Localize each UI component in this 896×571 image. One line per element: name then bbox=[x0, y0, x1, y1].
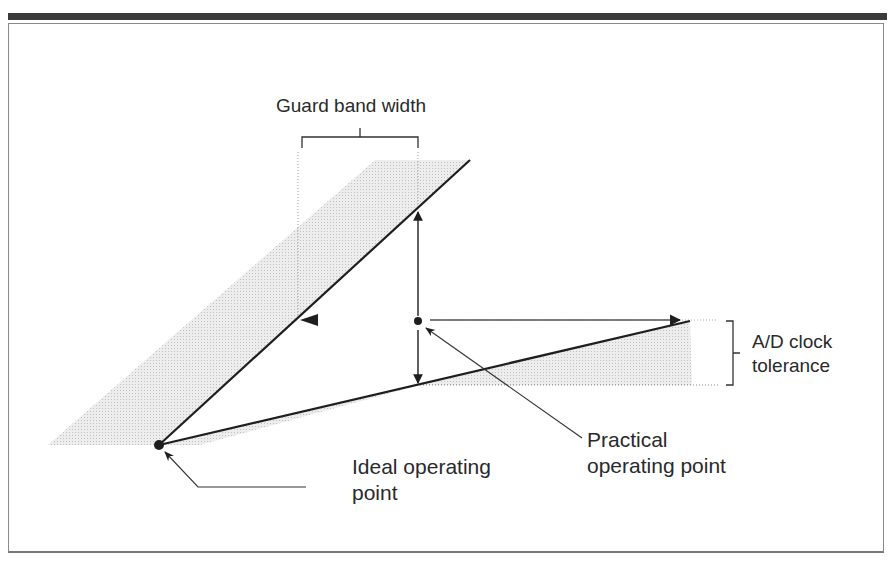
ideal-operating-point-dot bbox=[154, 440, 164, 450]
guard-left-arrow-icon bbox=[300, 314, 318, 326]
practical-operating-point-label-line1: Practical bbox=[587, 428, 668, 452]
ideal-operating-point-label-line1: Ideal operating bbox=[352, 455, 491, 479]
operating-point-diagram bbox=[0, 0, 896, 571]
guard-band-bracket bbox=[302, 128, 418, 148]
ad-clock-tolerance-label-line1: A/D clock bbox=[752, 330, 832, 354]
guard-band-width-label: Guard band width bbox=[276, 94, 426, 118]
ad-clock-tolerance-label-line2: tolerance bbox=[752, 354, 830, 378]
upper-guard-band-shade bbox=[48, 160, 470, 445]
practical-operating-point-label-line2: operating point bbox=[587, 454, 726, 478]
upper-boundary-line bbox=[159, 160, 470, 445]
ideal-leader-line bbox=[165, 452, 306, 487]
ideal-operating-point-label-line2: point bbox=[352, 481, 398, 505]
tolerance-bracket bbox=[726, 321, 740, 385]
practical-operating-point-dot bbox=[414, 317, 422, 325]
